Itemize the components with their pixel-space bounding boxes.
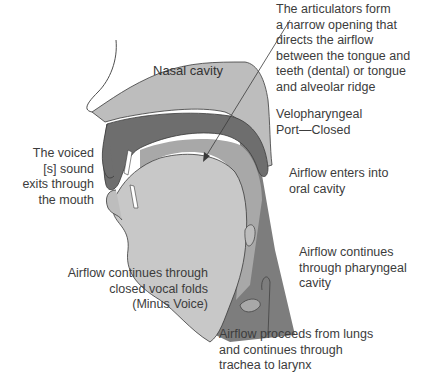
- vocal-folds-line-1: Airflow continues through: [68, 266, 208, 282]
- velopharyngeal-line-2: Port—Closed: [276, 123, 362, 139]
- articulators-line-1: The articulators form: [276, 2, 410, 18]
- articulators-line-3: directs the airflow: [276, 33, 410, 49]
- voiced-s-label: The voiced [s] sound exits through the m…: [22, 146, 94, 208]
- articulators-line-6: and alveolar ridge: [276, 80, 410, 96]
- oral-entry-line-2: oral cavity: [289, 182, 388, 198]
- articulators-label: The articulators form a narrow opening t…: [276, 2, 410, 95]
- pharyngeal-line-3: cavity: [299, 276, 407, 292]
- lungs-line-2: and continues through: [219, 343, 373, 359]
- oral-entry-label: Airflow enters into oral cavity: [289, 166, 388, 197]
- vocal-folds-line-3: (Minus Voice): [68, 297, 208, 313]
- lungs-line-3: trachea to larynx: [219, 358, 373, 374]
- voiced-s-line-3: exits through: [22, 177, 94, 193]
- velopharyngeal-label: Velopharyngeal Port—Closed: [276, 107, 362, 138]
- velopharyngeal-line-1: Velopharyngeal: [276, 107, 362, 123]
- pharyngeal-line-2: through pharyngeal: [299, 261, 407, 277]
- pharyngeal-line-1: Airflow continues: [299, 245, 407, 261]
- voiced-s-line-4: the mouth: [22, 193, 94, 209]
- vocal-folds-label: Airflow continues through closed vocal f…: [68, 266, 208, 313]
- nasal-cavity-label: Nasal cavity: [153, 63, 223, 79]
- voiced-s-line-2: [s] sound: [22, 162, 94, 178]
- lungs-label: Airflow proceeds from lungs and continue…: [219, 327, 373, 374]
- oral-entry-line-1: Airflow enters into: [289, 166, 388, 182]
- tongue-jaw: [113, 154, 246, 342]
- pharyngeal-label: Airflow continues through pharyngeal cav…: [299, 245, 407, 292]
- voiced-s-line-1: The voiced: [22, 146, 94, 162]
- articulators-line-4: between the tongue and: [276, 49, 410, 65]
- vocal-folds-line-2: closed vocal folds: [68, 282, 208, 298]
- articulators-line-5: teeth (dental) or tongue: [276, 64, 410, 80]
- articulators-line-2: a narrow opening that: [276, 18, 410, 34]
- lungs-line-1: Airflow proceeds from lungs: [219, 327, 373, 343]
